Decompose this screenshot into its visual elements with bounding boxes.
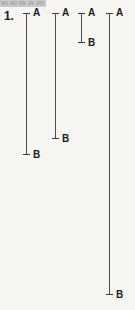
bracket-4-bottom-label: B: [116, 290, 123, 300]
bracket-4-stem: [109, 13, 110, 295]
redacted-header-strip: [0, 0, 46, 7]
bracket-3-bottom-cap: [78, 42, 85, 43]
bracket-2-bottom-cap: [52, 138, 59, 139]
bracket-1-bottom-cap: [23, 154, 30, 155]
bracket-3-top-label: A: [88, 8, 95, 18]
bracket-1-top-label: A: [33, 8, 40, 18]
diagram-canvas: 1. A B A B A B A B: [0, 0, 135, 310]
bracket-1-bottom-label: B: [33, 150, 40, 160]
bracket-4-top-label: A: [116, 8, 123, 18]
bracket-2-stem: [55, 13, 56, 139]
bracket-2-bottom-label: B: [62, 134, 69, 144]
bracket-2-top-label: A: [62, 8, 69, 18]
item-number-label: 1.: [4, 10, 14, 23]
bracket-3-stem: [81, 13, 82, 43]
bracket-1-stem: [26, 13, 27, 155]
bracket-3-bottom-label: B: [88, 38, 95, 48]
bracket-4-bottom-cap: [106, 294, 113, 295]
